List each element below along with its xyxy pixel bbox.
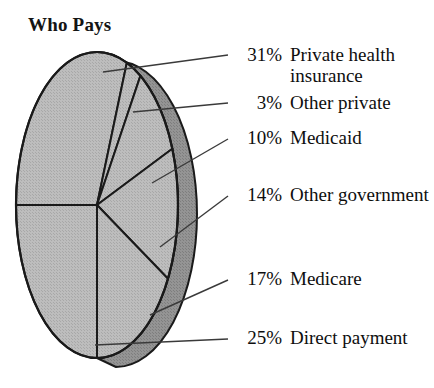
callout-label: Direct payment	[290, 327, 408, 348]
callout-pct: 25%	[236, 327, 282, 348]
callout-pct: 31%	[236, 44, 282, 65]
callout-pct: 14%	[236, 184, 282, 205]
callout-other-private[interactable]: 3% Other private	[236, 92, 391, 113]
callout-label: Other private	[290, 92, 391, 113]
callout-direct-payment[interactable]: 25% Direct payment	[236, 327, 408, 348]
callout-medicaid[interactable]: 10% Medicaid	[236, 127, 362, 148]
callout-label: Medicaid	[290, 127, 362, 148]
callout-label: Other government	[290, 184, 429, 205]
callout-medicare[interactable]: 17% Medicare	[236, 268, 362, 289]
callout-other-government[interactable]: 14% Other government	[236, 184, 429, 205]
callout-private-health-insurance[interactable]: 31% Private health insurance	[236, 44, 434, 86]
callout-pct: 10%	[236, 127, 282, 148]
callout-label: Medicare	[290, 268, 362, 289]
callout-pct: 17%	[236, 268, 282, 289]
callout-pct: 3%	[236, 92, 282, 113]
pie-geometry	[16, 52, 197, 367]
chart-page: Who Pays 31% Private health insurance 3%…	[0, 0, 434, 388]
callout-label: Private health insurance	[290, 44, 434, 86]
